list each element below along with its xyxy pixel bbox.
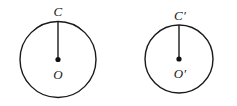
- circle-left-center-dot: [55, 57, 60, 62]
- figure-canvas: [0, 0, 237, 106]
- circle-right-center-dot: [176, 56, 181, 61]
- circle-right-center-label: O′: [174, 67, 187, 80]
- circle-left-center-label: O: [53, 68, 63, 81]
- circle-right-group: [145, 25, 213, 93]
- circle-left-group: [20, 22, 96, 98]
- geometry-figure: C O C′ O′: [0, 0, 237, 106]
- circle-left-top-label: C: [54, 5, 63, 18]
- circle-right-top-label: C′: [174, 9, 186, 22]
